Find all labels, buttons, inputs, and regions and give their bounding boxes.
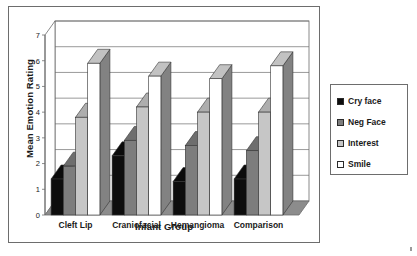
legend-item: Cry face	[337, 91, 407, 112]
y-tick-label: 5	[36, 82, 40, 91]
bar-column	[271, 52, 293, 215]
legend-item: Smile	[337, 154, 407, 175]
y-tick-labels: 01234567	[36, 31, 40, 220]
legend-swatch-neg-face	[337, 119, 344, 126]
bar-column	[88, 49, 110, 215]
legend-swatch-cry-face	[337, 98, 344, 105]
y-tick-label: 3	[36, 134, 40, 143]
chart-plot-frame: 01234567 Cleft LipCraniofacialHemangioma…	[8, 6, 320, 243]
y-tick-label: 2	[36, 159, 40, 168]
y-tick-label: 6	[36, 57, 40, 66]
legend-swatch-smile	[337, 161, 344, 168]
y-tick-label: 7	[36, 31, 40, 40]
y-tick-label: 0	[36, 211, 40, 220]
legend-label: Interest	[348, 139, 379, 148]
bar-column	[210, 65, 232, 215]
y-tick-label: 4	[36, 108, 40, 117]
scan-artifact	[410, 247, 412, 251]
bar-column	[149, 62, 171, 215]
bar-chart-svg: 01234567 Cleft LipCraniofacialHemangioma…	[9, 7, 321, 244]
y-axis-title: Mean Emotion Rating	[24, 39, 35, 179]
chart-figure: 01234567 Cleft LipCraniofacialHemangioma…	[0, 0, 417, 256]
legend-label: Smile	[348, 160, 371, 169]
y-tick-label: 1	[36, 185, 40, 194]
y-axis	[42, 35, 45, 215]
x-axis-title: Infant Group	[39, 221, 289, 232]
legend-swatch-interest	[337, 140, 344, 147]
legend-label: Cry face	[348, 97, 382, 106]
legend-label: Neg Face	[348, 118, 386, 127]
legend-item: Neg Face	[337, 112, 407, 133]
legend-item: Interest	[337, 133, 407, 154]
chart-legend: Cry face Neg Face Interest Smile	[330, 84, 408, 175]
